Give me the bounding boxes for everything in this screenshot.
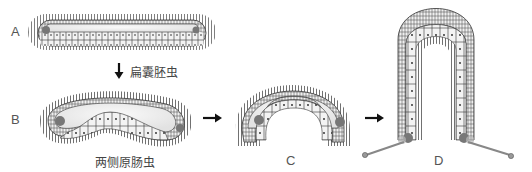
arrow-a-b-caption: 扁囊胚虫 — [130, 63, 178, 80]
stage-b-label: B — [11, 112, 20, 127]
diagram-canvas — [0, 0, 532, 172]
stage-b-caption: 两侧原肠虫 — [95, 153, 155, 170]
stage-b-larva — [40, 91, 192, 146]
stage-a-larva — [28, 14, 216, 50]
arrow-b-to-c — [203, 114, 222, 123]
stage-c-label: C — [286, 153, 295, 168]
stage-d-label: D — [434, 153, 443, 168]
stage-c-larva — [236, 85, 350, 146]
developmental-stages-diagram: A B C D 扁囊胚虫 两侧原肠虫 — [0, 0, 532, 172]
arrow-a-to-b — [115, 63, 124, 79]
stage-d-larva — [362, 9, 513, 159]
stage-a-label: A — [11, 24, 20, 39]
arrow-c-to-d — [365, 114, 384, 123]
